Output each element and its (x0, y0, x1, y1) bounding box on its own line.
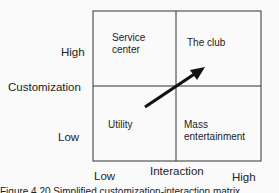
quadrant-the-club: The club (187, 37, 225, 49)
x-axis-low-label: Low (94, 170, 115, 182)
y-axis-high-label: High (61, 46, 85, 58)
x-axis-high-label: High (232, 171, 256, 183)
arrow-icon (145, 67, 205, 107)
quadrant-utility: Utility (108, 119, 132, 131)
quadrant-service-center: Servicecenter (112, 32, 162, 56)
y-axis-title: Customization (8, 81, 81, 93)
y-axis-low-label: Low (58, 131, 79, 143)
matrix-grid (0, 0, 279, 193)
x-axis-title: Interaction (150, 165, 204, 177)
quadrant-mass-entertainment: Massentertainment (184, 119, 254, 143)
figure-caption: Figure 4.20 Simplified customization-int… (0, 186, 240, 193)
